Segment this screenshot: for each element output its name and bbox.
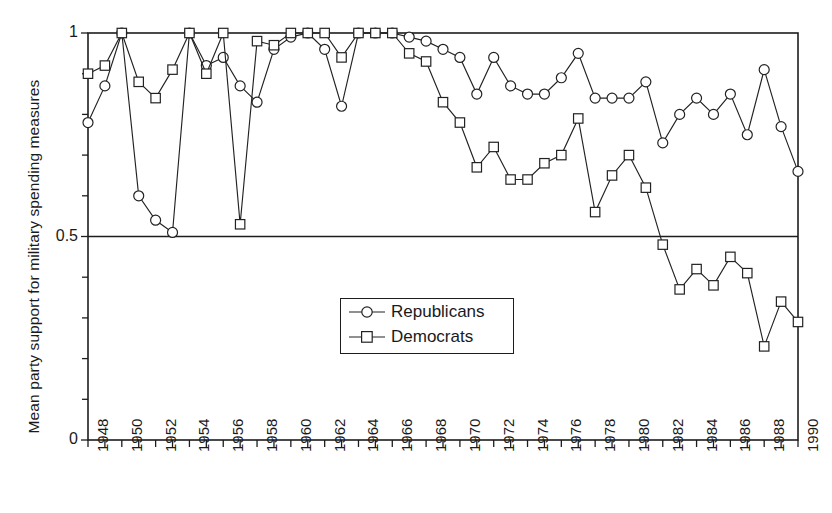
legend-label-democrats: Democrats [391,327,473,347]
data-point-circle [438,44,448,54]
data-point-circle [506,81,516,91]
data-point-square [776,297,785,306]
data-point-square [100,61,109,70]
data-point-square [675,285,684,294]
data-point-circle [83,118,93,128]
data-point-square [371,28,380,37]
data-point-square [624,150,633,159]
data-point-circle [556,73,566,83]
data-point-circle [590,93,600,103]
data-point-square [252,36,261,45]
data-point-square [743,268,752,277]
data-point-square [388,28,397,37]
data-point-square [455,118,464,127]
data-point-square [574,114,583,123]
data-point-circle [692,93,702,103]
data-point-square [709,281,718,290]
data-point-circle [235,81,245,91]
data-point-square [219,28,228,37]
data-point-square [404,49,413,58]
data-point-square [151,93,160,102]
data-point-circle [573,48,583,58]
circle-marker-icon [347,303,387,321]
data-point-square [658,240,667,249]
data-point-circle [252,97,262,107]
series-republicans [83,28,803,237]
data-point-square [134,77,143,86]
legend-item-republicans: Republicans [341,299,513,324]
data-point-square [235,220,244,229]
data-point-square [726,252,735,261]
data-point-square [607,171,616,180]
data-point-circle [708,109,718,119]
data-point-circle [725,89,735,99]
chart-legend: Republicans Democrats [340,298,514,354]
data-point-square [320,28,329,37]
data-point-square [269,41,278,50]
legend-item-democrats: Democrats [341,324,513,349]
legend-label-republicans: Republicans [391,302,485,322]
data-point-square [438,97,447,106]
data-point-square [83,69,92,78]
data-point-circle [776,122,786,132]
data-point-circle [151,215,161,225]
data-point-circle [421,36,431,46]
data-point-square [692,264,701,273]
data-point-circle [489,52,499,62]
data-point-circle [168,227,178,237]
data-point-square [117,28,126,37]
series-line-republicans [88,33,798,232]
data-point-circle [624,93,634,103]
data-point-square [759,342,768,351]
data-point-circle [337,101,347,111]
data-point-square [506,175,515,184]
chart-figure: Mean party support for military spending… [0,0,832,513]
data-point-circle [759,65,769,75]
data-point-circle [607,93,617,103]
data-point-square [590,207,599,216]
data-point-square [337,53,346,62]
data-point-square [489,142,498,151]
data-point-square [421,57,430,66]
data-point-square [354,28,363,37]
data-point-circle [675,109,685,119]
data-point-square [303,28,312,37]
data-point-square [168,65,177,74]
data-point-circle [218,52,228,62]
data-point-circle [134,191,144,201]
data-point-circle [100,81,110,91]
data-point-square [540,159,549,168]
data-point-square [286,28,295,37]
data-point-square [557,150,566,159]
data-point-square [202,69,211,78]
data-point-circle [472,89,482,99]
data-point-circle [742,130,752,140]
data-point-circle [539,89,549,99]
data-point-circle [455,52,465,62]
plot-canvas [0,0,832,513]
data-point-circle [793,166,803,176]
data-point-circle [641,77,651,87]
data-point-square [641,183,650,192]
data-point-square [472,163,481,172]
data-point-square [185,28,194,37]
data-point-square [793,317,802,326]
data-point-circle [404,32,414,42]
data-point-circle [320,44,330,54]
data-point-circle [658,138,668,148]
data-point-circle [523,89,533,99]
square-marker-icon [347,328,387,346]
data-point-square [523,175,532,184]
